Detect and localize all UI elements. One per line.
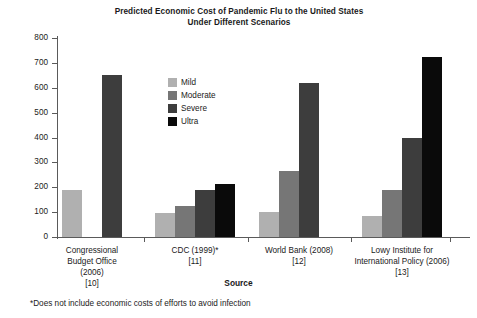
bar-mild-group-3: [362, 216, 382, 237]
y-tick-label-200: 200: [8, 183, 48, 191]
legend-label-severe: Severe: [181, 104, 207, 113]
bar-moderate-group-2: [279, 171, 299, 237]
legend-swatch-moderate: [168, 91, 177, 100]
category-label-3-line-2: [13]: [342, 267, 462, 278]
x-tick-2: [248, 237, 249, 242]
bar-ultra-group-1: [215, 184, 235, 237]
category-label-3: Lowy Institute forInternational Policy (…: [342, 245, 462, 278]
legend-swatch-mild: [168, 78, 177, 87]
y-tick-label-300: 300: [8, 158, 48, 166]
category-label-1-line-1: [11]: [147, 256, 243, 267]
y-tick-0: [52, 237, 57, 238]
legend-swatch-ultra: [168, 117, 177, 126]
bar-severe-group-2: [299, 83, 319, 237]
bar-severe-group-1: [195, 190, 215, 237]
category-label-3-line-1: International Policy (2006): [342, 256, 462, 267]
x-tick-1: [144, 237, 145, 242]
legend-swatch-severe: [168, 104, 177, 113]
category-label-0-line-1: Budget Office: [40, 256, 144, 267]
chart-title-line-2: Under Different Scenarios: [58, 17, 420, 28]
y-tick-label-400: 400: [8, 134, 48, 142]
y-tick-label-100: 100: [8, 208, 48, 216]
legend-label-mild: Mild: [181, 78, 196, 87]
chart-figure: Predicted Economic Cost of Pandemic Flu …: [0, 0, 477, 318]
legend-item-mild[interactable]: Mild: [168, 76, 248, 89]
category-label-1-line-0: CDC (1999)*: [147, 245, 243, 256]
category-label-0-line-0: Congressional: [40, 245, 144, 256]
y-tick-label-600: 600: [8, 84, 48, 92]
bar-mild-group-1: [155, 213, 175, 237]
y-tick-label-700: 700: [8, 59, 48, 67]
y-tick-label-800: 800: [8, 34, 48, 42]
plot-area: [57, 38, 470, 237]
bar-severe-group-3: [402, 138, 422, 238]
bar-moderate-group-3: [382, 190, 402, 237]
chart-legend: MildModerateSevereUltra: [168, 76, 248, 128]
category-label-3-line-0: Lowy Institute for: [342, 245, 462, 256]
bar-severe-group-0: [102, 75, 122, 237]
chart-title: Predicted Economic Cost of Pandemic Flu …: [58, 6, 420, 28]
category-label-0-line-2: (2006): [40, 267, 144, 278]
y-tick-label-0: 0: [8, 233, 48, 241]
category-label-2: World Bank (2008)[12]: [244, 245, 354, 267]
legend-label-ultra: Ultra: [181, 117, 198, 126]
category-label-1: CDC (1999)*[11]: [147, 245, 243, 267]
legend-item-moderate[interactable]: Moderate: [168, 89, 248, 102]
chart-footnote: *Does not include economic costs of effo…: [30, 299, 251, 308]
category-label-2-line-1: [12]: [244, 256, 354, 267]
x-tick-3: [351, 237, 352, 242]
chart-title-line-1: Predicted Economic Cost of Pandemic Flu …: [58, 6, 420, 17]
legend-item-severe[interactable]: Severe: [168, 102, 248, 115]
x-axis-title: Source: [0, 278, 477, 288]
legend-item-ultra[interactable]: Ultra: [168, 115, 248, 128]
bar-moderate-group-1: [175, 206, 195, 237]
legend-label-moderate: Moderate: [181, 91, 216, 100]
x-tick-end: [450, 237, 451, 242]
y-tick-label-500: 500: [8, 109, 48, 117]
bar-mild-group-2: [259, 212, 279, 237]
category-label-2-line-0: World Bank (2008): [244, 245, 354, 256]
bar-ultra-group-3: [422, 57, 442, 237]
bar-mild-group-0: [62, 190, 82, 237]
x-axis-line: [57, 237, 470, 238]
